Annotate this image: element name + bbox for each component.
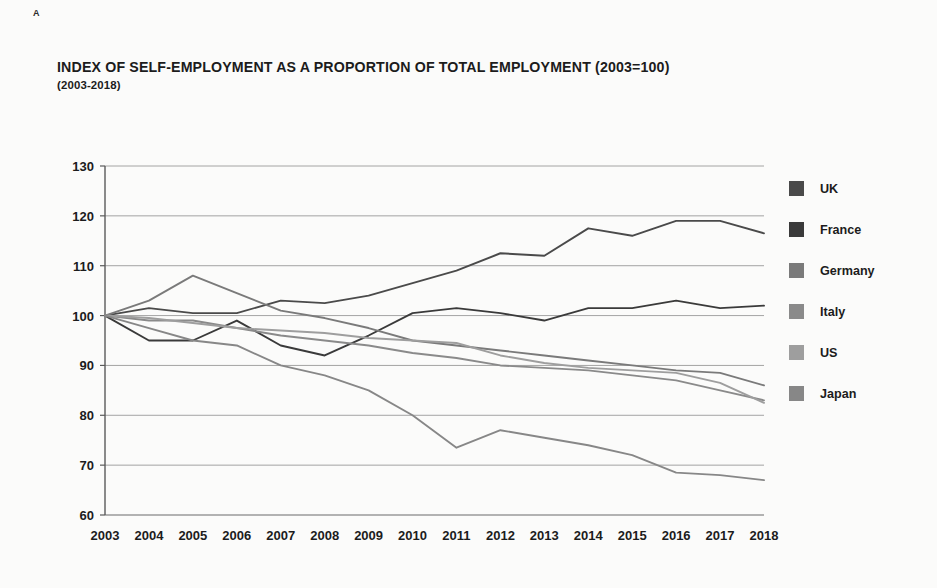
series-line-japan: [105, 316, 764, 481]
x-axis-tick-label: 2018: [750, 528, 779, 543]
axis-lines: [100, 166, 105, 515]
x-axis-tick-label: 2015: [618, 528, 647, 543]
legend-item-label: Italy: [820, 305, 845, 319]
y-axis-tick-label: 80: [80, 408, 94, 423]
x-axis-tick-label: 2009: [354, 528, 383, 543]
x-axis-tick-label: 2012: [486, 528, 515, 543]
y-axis-tick-label: 120: [72, 209, 94, 224]
x-axis-tick-label: 2013: [530, 528, 559, 543]
series-line-italy: [105, 316, 764, 401]
gridlines: [105, 166, 764, 515]
figure-panel: A INDEX OF SELF-EMPLOYMENT AS A PROPORTI…: [0, 0, 937, 588]
x-axis-tick-label: 2014: [574, 528, 604, 543]
legend-item-label: US: [820, 346, 838, 360]
legend-swatch-icon: [789, 304, 804, 319]
chart-legend: UKFranceGermanyItalyUSJapan: [789, 168, 929, 414]
legend-item-label: UK: [820, 182, 838, 196]
x-axis-tick-labels: 2003200420052006200720082009201020112012…: [91, 528, 779, 543]
x-axis-tick-label: 2016: [662, 528, 691, 543]
series-line-us: [105, 316, 764, 403]
legend-item-label: Germany: [820, 264, 875, 278]
legend-item-japan[interactable]: Japan: [789, 373, 929, 414]
legend-item-uk[interactable]: UK: [789, 168, 929, 209]
legend-item-germany[interactable]: Germany: [789, 250, 929, 291]
legend-swatch-icon: [789, 263, 804, 278]
legend-item-label: France: [820, 223, 861, 237]
legend-swatch-icon: [789, 222, 804, 237]
x-axis-tick-label: 2008: [310, 528, 339, 543]
x-axis-tick-label: 2006: [222, 528, 251, 543]
y-axis-tick-labels: 60708090100110120130: [72, 159, 94, 523]
series-line-germany: [105, 276, 764, 386]
x-axis-tick-label: 2017: [706, 528, 735, 543]
x-axis-tick-label: 2010: [398, 528, 427, 543]
legend-item-us[interactable]: US: [789, 332, 929, 373]
legend-swatch-icon: [789, 386, 804, 401]
x-axis-tick-label: 2004: [134, 528, 164, 543]
y-axis-tick-label: 70: [80, 458, 94, 473]
y-axis-tick-label: 110: [73, 259, 94, 274]
legend-item-label: Japan: [820, 387, 856, 401]
y-axis-tick-label: 130: [72, 159, 94, 174]
series-lines: [105, 221, 764, 480]
x-axis-tick-label: 2011: [442, 528, 470, 543]
series-line-france: [105, 301, 764, 356]
x-axis-tick-label: 2005: [178, 528, 207, 543]
y-axis-tick-label: 100: [72, 309, 94, 324]
legend-item-france[interactable]: France: [789, 209, 929, 250]
x-axis-tick-label: 2003: [91, 528, 120, 543]
legend-swatch-icon: [789, 345, 804, 360]
legend-item-italy[interactable]: Italy: [789, 291, 929, 332]
y-axis-tick-label: 90: [80, 358, 94, 373]
legend-swatch-icon: [789, 181, 804, 196]
series-line-uk: [105, 221, 764, 316]
x-axis-tick-label: 2007: [266, 528, 295, 543]
y-axis-tick-label: 60: [80, 508, 94, 523]
